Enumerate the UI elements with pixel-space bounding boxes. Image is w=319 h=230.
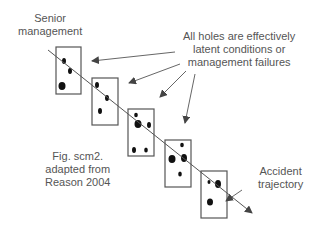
defence-layer-3 (128, 109, 154, 156)
pointer-arrows (92, 52, 242, 201)
figure-caption: Fig. scm2. adapted from Reason 2004 (45, 150, 110, 189)
senior-management-label: Senior management (18, 12, 82, 38)
holes-description-label: All holes are effectively latent conditi… (183, 30, 295, 69)
defence-layer-5 (201, 171, 227, 218)
accident-trajectory-label: Accident trajectory (258, 165, 303, 191)
